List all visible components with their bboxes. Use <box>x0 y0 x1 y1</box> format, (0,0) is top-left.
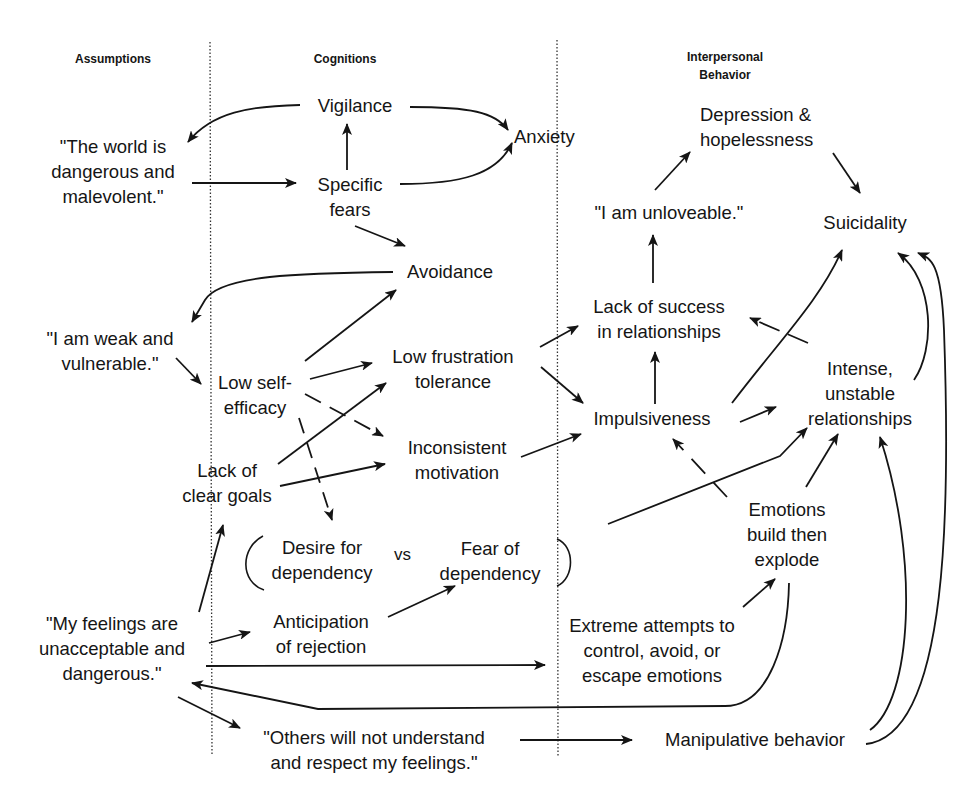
node-unloveable: "I am unloveable." <box>594 200 744 225</box>
edge-unloveable-depression <box>655 152 690 190</box>
edge-manipulative-intense <box>870 437 906 730</box>
node-avoidance: Avoidance <box>395 259 505 284</box>
node-desire-dependency: Desire for dependency <box>262 535 382 585</box>
edge-vigilance-anxiety <box>410 107 508 130</box>
edge-anticipation-fear <box>388 586 455 617</box>
edge-avoidance-weak <box>192 272 393 322</box>
edge-feelings-anticipation <box>209 632 250 643</box>
header-cognitions: Cognitions <box>295 50 395 68</box>
node-feelings-unacceptable: "My feelings are unacceptable and danger… <box>22 611 202 686</box>
edge-selfefficacy-motivation <box>305 394 383 436</box>
node-emotions-explode: Emotions build then explode <box>732 497 842 572</box>
node-world-dangerous: "The world is dangerous and malevolent." <box>38 134 188 209</box>
edge-selfefficacy-desire <box>299 418 332 520</box>
node-low-frustration-tolerance: Low frustration tolerance <box>378 344 528 394</box>
edge-feelings-others <box>178 697 240 728</box>
node-weak-vulnerable: "I am weak and vulnerable." <box>30 326 190 376</box>
edge-goals-motivation <box>280 464 385 486</box>
node-inconsistent-motivation: Inconsistent motivation <box>392 435 522 485</box>
header-assumptions: Assumptions <box>58 50 168 68</box>
edge-extreme-emotions <box>743 579 775 607</box>
edge-motivation-impulsive <box>521 434 581 457</box>
edge-fears-avoidance <box>355 226 405 246</box>
node-fear-dependency: Fear of dependency <box>430 536 550 586</box>
node-suicidality: Suicidality <box>810 210 920 235</box>
edge-depression-suicidality <box>833 153 860 193</box>
node-vigilance: Vigilance <box>305 93 405 118</box>
edge-feelings-extreme <box>206 665 545 666</box>
edge-frustration-impulsive <box>541 367 583 403</box>
edge-vigilance-world <box>188 105 300 142</box>
edge-intense-success <box>750 318 808 343</box>
label-vs: vs <box>394 545 411 565</box>
node-anxiety: Anxiety <box>514 124 594 149</box>
node-others-not-understand: "Others will not understand and respect … <box>244 725 504 775</box>
node-lack-success-relationships: Lack of success in relationships <box>584 294 734 344</box>
node-manipulative: Manipulative behavior <box>645 727 865 752</box>
edge-fears-anxiety <box>400 143 512 184</box>
node-extreme-attempts: Extreme attempts to control, avoid, or e… <box>552 613 752 688</box>
edge-impulsive-intense <box>740 407 776 422</box>
edge-frustration-success <box>540 326 578 347</box>
bracket-right <box>557 539 571 586</box>
header-interpersonal-behavior: Interpersonal Behavior <box>665 48 785 84</box>
node-intense-unstable: Intense, unstable relationships <box>795 356 925 431</box>
node-specific-fears: Specific fears <box>300 172 400 222</box>
node-anticipation-rejection: Anticipation of rejection <box>256 609 386 659</box>
node-low-self-efficacy: Low self- efficacy <box>205 370 305 420</box>
node-lack-clear-goals: Lack of clear goals <box>172 458 282 508</box>
node-impulsiveness: Impulsiveness <box>584 406 720 431</box>
node-depression-hopelessness: Depression & hopelessness <box>700 102 840 152</box>
edge-manipulative-suicidality <box>866 253 946 744</box>
edge-selfefficacy-frustration <box>310 363 372 379</box>
edge-emotions-intense <box>806 434 838 487</box>
